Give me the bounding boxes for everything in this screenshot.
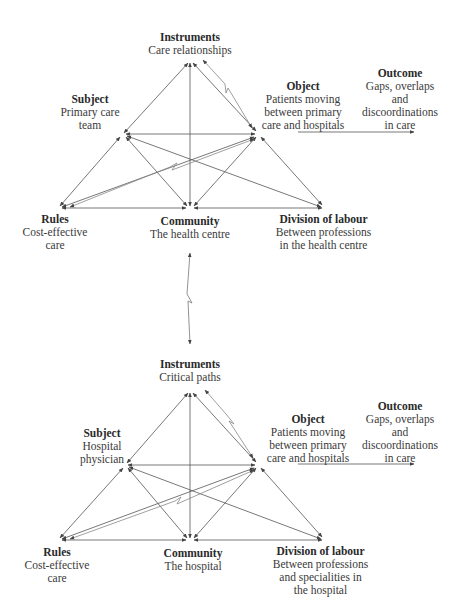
node-desc: Cost-effective — [22, 559, 92, 572]
node-desc: The hospital — [143, 560, 243, 573]
node-desc: Care relationships — [130, 44, 250, 57]
top-node-object: Object Patients moving between primary c… — [258, 80, 348, 132]
node-desc: Between professions — [266, 226, 381, 239]
node-desc: physician — [72, 453, 132, 466]
top-node-community: Community The health centre — [140, 215, 240, 241]
node-title: Division of labour — [266, 213, 381, 226]
bottom-node-outcome: Outcome Gaps, overlaps and discoordinati… — [355, 400, 445, 465]
node-desc: and specialities in — [263, 571, 378, 584]
node-desc: and — [355, 93, 445, 106]
bottom-node-rules: Rules Cost-effective care — [22, 546, 92, 585]
node-desc: Cost-effective — [20, 226, 90, 239]
node-desc: Between professions — [263, 558, 378, 571]
top-node-division-of-labour: Division of labour Between professions i… — [266, 213, 381, 252]
node-title: Community — [143, 547, 243, 560]
node-title: Rules — [20, 213, 90, 226]
bottom-node-subject: Subject Hospital physician — [72, 427, 132, 466]
node-title: Object — [263, 413, 353, 426]
node-title: Division of labour — [263, 545, 378, 558]
bottom-node-object: Object Patients moving between primary c… — [263, 413, 353, 465]
top-node-subject: Subject Primary care team — [55, 93, 125, 132]
node-desc: Patients moving — [263, 426, 353, 439]
node-desc: between primary — [258, 106, 348, 119]
node-title: Object — [258, 80, 348, 93]
node-title: Outcome — [355, 67, 445, 80]
node-desc: in the health centre — [266, 239, 381, 252]
node-title: Instruments — [130, 358, 250, 371]
node-desc: Gaps, overlaps — [355, 413, 445, 426]
node-title: Subject — [72, 427, 132, 440]
node-desc: Gaps, overlaps — [355, 80, 445, 93]
node-desc: Critical paths — [130, 371, 250, 384]
node-desc: The health centre — [140, 228, 240, 241]
node-desc: in care — [355, 452, 445, 465]
node-desc: discoordinations — [355, 439, 445, 452]
top-node-rules: Rules Cost-effective care — [20, 213, 90, 252]
node-desc: care and hospitals — [258, 119, 348, 132]
node-desc: team — [55, 119, 125, 132]
bottom-node-community: Community The hospital — [143, 547, 243, 573]
node-title: Rules — [22, 546, 92, 559]
node-desc: care — [22, 572, 92, 585]
node-title: Instruments — [130, 31, 250, 44]
node-desc: care — [20, 239, 90, 252]
top-node-outcome: Outcome Gaps, overlaps and discoordinati… — [355, 67, 445, 132]
node-title: Outcome — [355, 400, 445, 413]
inter-system-contradiction-arrow — [187, 253, 192, 344]
node-desc: in care — [355, 119, 445, 132]
node-desc: Patients moving — [258, 93, 348, 106]
bottom-node-instruments: Instruments Critical paths — [130, 358, 250, 384]
node-desc: Hospital — [72, 440, 132, 453]
node-desc: and — [355, 426, 445, 439]
bottom-node-division-of-labour: Division of labour Between professions a… — [263, 545, 378, 597]
node-desc: Primary care — [55, 106, 125, 119]
node-desc: discoordinations — [355, 106, 445, 119]
node-desc: between primary — [263, 439, 353, 452]
node-desc: care and hospitals — [263, 452, 353, 465]
node-desc: the hospital — [263, 584, 378, 597]
node-title: Subject — [55, 93, 125, 106]
node-title: Community — [140, 215, 240, 228]
top-node-instruments: Instruments Care relationships — [130, 31, 250, 57]
